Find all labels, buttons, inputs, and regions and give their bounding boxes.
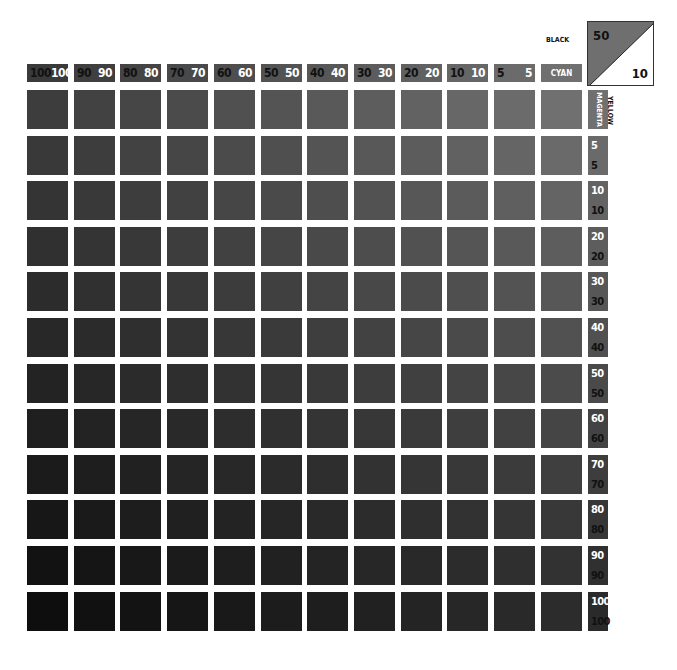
- tint-cell: [307, 500, 348, 539]
- tint-cell: [401, 500, 442, 539]
- tint-cell: [167, 318, 208, 357]
- column-header: 5050: [261, 64, 302, 82]
- row-label-primary: 70: [591, 459, 604, 470]
- row-label-secondary: 60: [591, 433, 604, 444]
- row-header: 4040: [588, 318, 608, 357]
- column-label-primary: 40: [310, 66, 324, 80]
- column-header: 2020: [401, 64, 442, 82]
- tint-cell: [214, 364, 255, 403]
- tint-cell: [27, 272, 68, 311]
- tint-cell: [447, 592, 488, 631]
- column-label-primary: 90: [77, 66, 91, 80]
- tint-cell: [494, 136, 535, 175]
- column-label-secondary: 50: [285, 66, 299, 80]
- tint-cell: [74, 455, 115, 494]
- tint-cell: [494, 90, 535, 129]
- tint-cell: [494, 364, 535, 403]
- tint-cell: [120, 409, 161, 448]
- row-label: MAGENTA: [595, 92, 602, 127]
- tint-cell: [120, 500, 161, 539]
- tint-cell: [214, 546, 255, 585]
- row-header: 8080: [588, 500, 608, 539]
- column-label-secondary: 70: [191, 66, 205, 80]
- tint-cell: [354, 227, 395, 266]
- tint-cell: [401, 272, 442, 311]
- tint-cell: [447, 90, 488, 129]
- tint-cell: [120, 181, 161, 220]
- tint-cell: [167, 364, 208, 403]
- row-label-primary: 100: [591, 596, 610, 607]
- tint-cell: [541, 227, 582, 266]
- column-label-primary: 70: [170, 66, 184, 80]
- tint-cell: [27, 455, 68, 494]
- column-label-secondary: 60: [238, 66, 252, 80]
- yellow-value: 10: [632, 66, 648, 81]
- tint-cell: [447, 318, 488, 357]
- tint-cell: [27, 409, 68, 448]
- tint-cell: [214, 455, 255, 494]
- tint-cell: [401, 455, 442, 494]
- column-label-primary: 60: [217, 66, 231, 80]
- tint-cell: [261, 227, 302, 266]
- tint-cell: [214, 500, 255, 539]
- tint-cell: [447, 364, 488, 403]
- tint-cell: [354, 500, 395, 539]
- tint-cell: [74, 546, 115, 585]
- row-label-secondary: 50: [591, 388, 604, 399]
- row-header: 9090: [588, 546, 608, 585]
- column-label-secondary: 20: [425, 66, 439, 80]
- tint-cell: [261, 546, 302, 585]
- tint-cell: [494, 500, 535, 539]
- tint-cell: [307, 364, 348, 403]
- row-label-secondary: 100: [591, 616, 610, 627]
- tint-cell: [214, 592, 255, 631]
- tint-cell: [120, 546, 161, 585]
- row-header-magenta: MAGENTA: [588, 90, 608, 129]
- tint-cell: [120, 592, 161, 631]
- tint-chart: BLACK 50 10 YELLOW 100100909080807070606…: [0, 0, 677, 670]
- tint-cell: [74, 364, 115, 403]
- tint-cell: [167, 90, 208, 129]
- tint-cell: [401, 136, 442, 175]
- row-label-primary: 60: [591, 413, 604, 424]
- tint-cell: [447, 455, 488, 494]
- tint-cell: [354, 592, 395, 631]
- tint-cell: [401, 90, 442, 129]
- tint-cell: [307, 318, 348, 357]
- tint-cell: [261, 364, 302, 403]
- tint-cell: [120, 364, 161, 403]
- tint-cell: [541, 90, 582, 129]
- row-header: 5050: [588, 364, 608, 403]
- tint-cell: [541, 318, 582, 357]
- column-label-secondary: 30: [378, 66, 392, 80]
- tint-cell: [541, 272, 582, 311]
- tint-cell: [167, 409, 208, 448]
- tint-cell: [120, 455, 161, 494]
- row-label-secondary: 30: [591, 296, 604, 307]
- column-header: 6060: [214, 64, 255, 82]
- tint-cell: [401, 318, 442, 357]
- tint-cell: [401, 227, 442, 266]
- tint-cell: [307, 455, 348, 494]
- column-label: CYAN: [551, 69, 572, 78]
- tint-cell: [401, 546, 442, 585]
- row-label-primary: 10: [591, 185, 604, 196]
- tint-cell: [261, 136, 302, 175]
- row-label-secondary: 70: [591, 479, 604, 490]
- tint-cell: [27, 227, 68, 266]
- tint-cell: [167, 136, 208, 175]
- row-header: 3030: [588, 272, 608, 311]
- tint-cell: [354, 318, 395, 357]
- tint-cell: [354, 409, 395, 448]
- tint-cell: [167, 455, 208, 494]
- tint-cell: [167, 181, 208, 220]
- tint-cell: [307, 90, 348, 129]
- column-label-primary: 20: [404, 66, 418, 80]
- tint-cell: [27, 318, 68, 357]
- tint-cell: [401, 592, 442, 631]
- tint-cell: [120, 272, 161, 311]
- tint-cell: [74, 90, 115, 129]
- tint-cell: [541, 455, 582, 494]
- tint-cell: [494, 409, 535, 448]
- tint-cell: [120, 227, 161, 266]
